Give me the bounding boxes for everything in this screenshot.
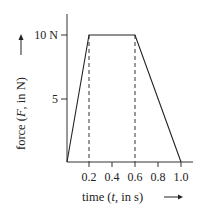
force-curve [67, 35, 181, 162]
svg-text:force (F, in N): force (F, in N) [14, 77, 28, 150]
x-tick-label: 0.6 [128, 170, 143, 184]
force-time-chart: 10 N 5 0.2 0.4 0.6 0.8 1.0 time (t, in s… [0, 0, 201, 213]
x-tick-label: 1.0 [174, 170, 189, 184]
x-axis-label: time (t, in s) [82, 190, 143, 204]
x-ticks [89, 162, 181, 167]
y-tick-label-10: 10 N [34, 28, 58, 42]
x-axis-arrow [164, 195, 183, 200]
y-axis-label: force (F, in N) [14, 77, 28, 150]
x-tick-label: 0.2 [82, 170, 97, 184]
y-axis-arrow [19, 34, 24, 55]
y-tick-label-5: 5 [52, 92, 58, 106]
x-tick-label: 0.8 [151, 170, 166, 184]
x-tick-label: 0.4 [105, 170, 120, 184]
